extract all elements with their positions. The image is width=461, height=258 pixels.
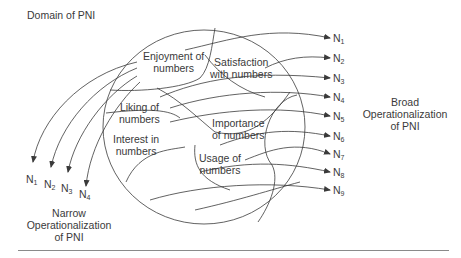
broad-caption-line2: Operationalization [351,108,459,120]
boundary-usage [258,95,297,222]
region-usage-line2: numbers [199,164,241,176]
region-interest: Interest in numbers [113,133,159,157]
broad-label-n9: N9 [333,185,345,199]
curve-lower-extra [195,182,300,210]
region-importance: Importance of numbers [212,117,265,141]
narrow-label-n2: N2 [44,179,56,193]
region-importance-line1: Importance [212,117,265,129]
region-enjoyment-line2: numbers [143,62,204,74]
region-enjoyment: Enjoyment of numbers [143,50,204,74]
narrow-label-n1: N1 [26,174,38,188]
domain-title: Domain of PNI [27,9,95,21]
bottom-rule [18,250,449,251]
arrow-broad-n7 [245,147,330,160]
broad-label-n2: N2 [333,53,345,67]
region-satisfaction-line1: Satisfaction [210,56,272,68]
region-enjoyment-line1: Enjoyment of [143,50,204,62]
arrow-broad-n4 [170,92,330,108]
narrow-label-n4: N4 [79,189,91,203]
region-interest-line2: numbers [113,145,159,157]
region-usage-line1: Usage of [199,152,241,164]
arrow-broad-n1 [185,33,330,50]
broad-label-n6: N6 [333,131,345,145]
narrow-caption-line1: Narrow [18,207,120,219]
broad-label-n3: N3 [333,73,345,87]
arrow-broad-n2 [265,57,330,68]
region-satisfaction-line2: with numbers [210,68,272,80]
narrow-label-n3: N3 [61,183,73,197]
narrow-caption-line3: of PNI [18,231,120,243]
broad-label-n7: N7 [333,149,345,163]
broad-caption-line1: Broad [351,96,459,108]
region-satisfaction: Satisfaction with numbers [210,56,272,80]
broad-label-n8: N8 [333,167,345,181]
arrow-broad-n9 [150,185,330,200]
broad-label-n5: N5 [333,111,345,125]
region-liking-line2: numbers [119,113,160,125]
broad-caption: Broad Operationalization of PNI [351,96,459,132]
region-usage: Usage of numbers [199,152,241,176]
broad-label-n4: N4 [333,92,345,106]
broad-label-n1: N1 [333,33,345,47]
narrow-caption: Narrow Operationalization of PNI [18,207,120,243]
narrow-caption-line2: Operationalization [18,219,120,231]
region-interest-line1: Interest in [113,133,159,145]
broad-caption-line3: of PNI [351,120,459,132]
region-liking: Liking of numbers [119,101,160,125]
region-liking-line1: Liking of [119,101,160,113]
region-importance-line2: of numbers [212,129,265,141]
